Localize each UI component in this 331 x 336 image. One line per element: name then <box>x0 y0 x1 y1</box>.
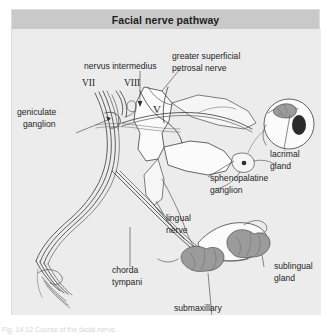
label-sublingual-gland-line2: gland <box>274 273 295 283</box>
label-geniculate-ganglion-line2: ganglion <box>23 119 56 129</box>
figure-caption: Fig. 14.12 Course of the facial nerve. <box>2 325 202 336</box>
figure-title-bar: Facial nerve pathway <box>12 10 319 29</box>
label-lacrimal-gland-line2: gland <box>270 161 291 171</box>
facial-nerve-diagram: .ink{fill:none;stroke:#454545;stroke-wid… <box>12 29 321 315</box>
figure-panel: Facial nerve pathway .ink{fill:none;stro… <box>11 9 320 315</box>
label-lingual-nerve-line2: nerve <box>166 225 188 235</box>
diagram-canvas: .ink{fill:none;stroke:#454545;stroke-wid… <box>12 29 321 315</box>
figure-caption-text: Fig. 14.12 Course of the facial nerve. <box>2 325 202 334</box>
label-chorda-tympani-line1: chorda <box>112 265 138 275</box>
label-sphenopalatine-line1: sphenopalatine <box>210 173 269 183</box>
label-greater-petrosal-line2: petrosal nerve <box>172 63 227 73</box>
label-geniculate-ganglion-line1: geniculate <box>17 107 56 117</box>
label-lacrimal-gland-line1: lacrimal <box>270 149 300 159</box>
label-greater-petrosal-line1: greater superficial <box>172 51 240 61</box>
vestibulocochlear-nerve-viii <box>116 91 136 117</box>
terminal-facial-branches <box>36 261 72 308</box>
label-nervus-intermedius: nervus intermedius <box>84 61 157 71</box>
label-trigeminal-v: V <box>153 103 161 115</box>
sublingual-gland <box>227 230 270 258</box>
submaxillary-gland <box>158 246 224 271</box>
page-title: Facial nerve pathway <box>112 14 220 26</box>
label-sphenopalatine-line2: ganglion <box>210 185 243 195</box>
label-submaxillary-gland-line1: submaxillary <box>174 303 222 313</box>
label-sublingual-gland-line1: sublingual <box>274 261 313 271</box>
label-lingual-nerve-line1: lingual <box>166 213 191 223</box>
label-chorda-tympani-line2: tympani <box>112 277 142 287</box>
label-cranial-nerve-vii: VII <box>82 78 95 88</box>
label-cranial-nerve-viii: VIII <box>124 78 140 88</box>
